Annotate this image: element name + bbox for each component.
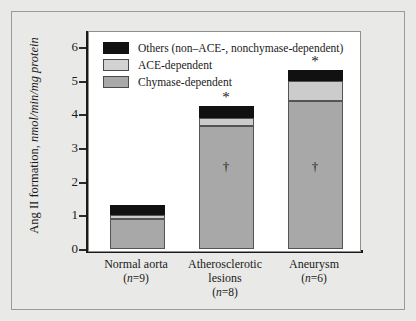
figure-container: Ang II formation, nmol/min/mg protein 6 …: [0, 0, 416, 321]
y-tick-label-4: 4: [52, 106, 78, 122]
bar-2: [199, 30, 254, 251]
y-tick-label-6: 6: [52, 39, 78, 55]
bar-1-segment-chymase: [110, 219, 165, 249]
x-category-name-2: lesions: [177, 271, 273, 285]
x-category-count-3: (n=6): [266, 271, 362, 285]
bar-3-segment-ace: [288, 81, 343, 101]
y-tick-label-2: 2: [52, 174, 78, 190]
y-axis-title-italic: nmol/min/mg protein: [27, 37, 41, 142]
x-axis-category-labels: Normal aorta(n=9)Atheroscleroticlesions(…: [88, 255, 361, 317]
bar-2-segment-chymase: [199, 126, 254, 249]
x-category-label-3: Aneurysm(n=6): [266, 257, 362, 285]
significance-dagger-3: †: [288, 160, 343, 173]
x-category-count-2: (n=8): [177, 285, 273, 299]
bar-1-segment-ace: [110, 215, 165, 218]
y-tick-label-1: 1: [52, 207, 78, 223]
y-axis-tick-labels: 6 5 4 3 2 1 0: [44, 0, 78, 321]
y-tick-label-0: 0: [52, 241, 78, 257]
plot-area: Others (non–ACE-, nonchymase-dependent) …: [88, 31, 361, 252]
significance-dagger-2: †: [199, 160, 254, 173]
bar-1-segment-others: [110, 205, 165, 215]
bar-3-segment-chymase: [288, 101, 343, 249]
x-category-name-1: Normal aorta: [88, 257, 184, 271]
y-tick-label-5: 5: [52, 73, 78, 89]
x-category-count-1: (n=9): [88, 271, 184, 285]
significance-star-2: *: [199, 90, 254, 105]
bar-2-segment-others: [199, 106, 254, 118]
y-axis-title: Ang II formation, nmol/min/mg protein: [27, 24, 42, 248]
x-category-name-3: Aneurysm: [266, 257, 362, 271]
x-category-label-2: Atheroscleroticlesions(n=8): [177, 257, 273, 299]
significance-star-3: *: [288, 54, 343, 69]
x-category-name-2: Atherosclerotic: [177, 257, 273, 271]
bar-2-segment-ace: [199, 118, 254, 126]
bar-1: [110, 30, 165, 251]
y-tick-label-3: 3: [52, 140, 78, 156]
y-axis-title-plain: Ang II formation,: [27, 142, 41, 234]
bar-3-segment-others: [288, 70, 343, 80]
x-category-label-1: Normal aorta(n=9): [88, 257, 184, 285]
